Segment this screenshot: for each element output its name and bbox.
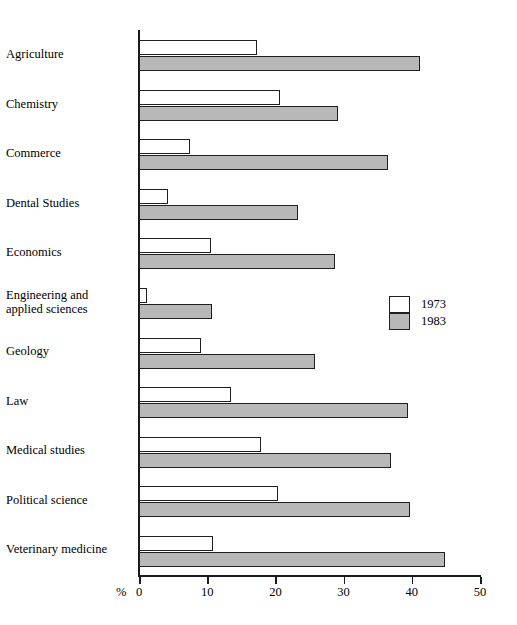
category-label: Commerce (6, 147, 130, 161)
category-label: Veterinary medicine (6, 543, 130, 557)
percent-axis-label: % (116, 585, 126, 600)
legend-label: 1973 (421, 297, 446, 312)
category-label: Geology (6, 345, 130, 359)
x-axis-tick-label: 50 (474, 585, 487, 600)
category-label: Political science (6, 494, 130, 508)
category-label: Engineering and applied sciences (6, 289, 130, 316)
category-label: Medical studies (6, 444, 130, 458)
bar-1973 (139, 536, 213, 551)
x-axis-tick (139, 577, 141, 584)
bar-1973 (139, 486, 278, 501)
bar-1973 (139, 139, 190, 154)
bar-1983 (139, 354, 315, 369)
x-axis-tick-label: 30 (337, 585, 350, 600)
bar-1983 (139, 205, 298, 220)
bar-1973 (139, 90, 280, 105)
bar-1983 (139, 304, 212, 319)
category-label: Dental Studies (6, 197, 130, 211)
category-label-column: AgricultureChemistryCommerceDental Studi… (6, 0, 130, 575)
bar-1983 (139, 552, 445, 567)
category-label: Agriculture (6, 48, 130, 62)
legend-label: 1983 (421, 314, 446, 329)
bar-1973 (139, 437, 261, 452)
bar-1973 (139, 40, 257, 55)
category-label: Economics (6, 246, 130, 260)
bar-1983 (139, 254, 335, 269)
chart-legend: 1973 1983 (389, 296, 489, 330)
bar-1983 (139, 403, 408, 418)
bar-1973 (139, 189, 168, 204)
x-axis-tick-label: 10 (201, 585, 214, 600)
legend-item-1983: 1983 (389, 313, 489, 330)
bar-1973 (139, 387, 231, 402)
x-axis-tick-label: 0 (136, 585, 142, 600)
x-axis-tick (412, 577, 414, 584)
category-label: Chemistry (6, 98, 130, 112)
x-axis-tick (344, 577, 346, 584)
x-axis-tick-label: 20 (269, 585, 282, 600)
x-axis-line (138, 575, 481, 577)
bar-1983 (139, 106, 338, 121)
category-label: Law (6, 395, 130, 409)
bar-1973 (139, 288, 147, 303)
x-axis-tick (480, 577, 482, 584)
bar-1983 (139, 453, 391, 468)
x-axis-tick-label: 40 (406, 585, 419, 600)
bar-1983 (139, 502, 410, 517)
bar-1983 (139, 155, 388, 170)
x-axis-tick (207, 577, 209, 584)
bar-1983 (139, 56, 420, 71)
legend-item-1973: 1973 (389, 296, 489, 313)
x-axis-tick (275, 577, 277, 584)
white-swatch-icon (389, 296, 410, 313)
gray-swatch-icon (389, 313, 410, 330)
bar-1973 (139, 238, 211, 253)
bar-chart: AgricultureChemistryCommerceDental Studi… (0, 0, 517, 625)
bar-1973 (139, 338, 201, 353)
